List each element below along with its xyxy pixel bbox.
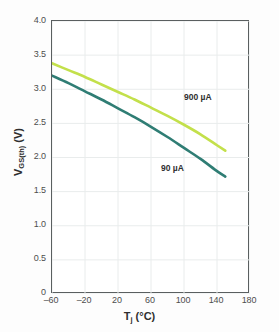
y-axis-title-main: V xyxy=(12,169,24,176)
y-tick-label: 0.5 xyxy=(2,254,46,263)
series-line-90ua xyxy=(52,76,225,177)
x-axis-title-unit: (°C) xyxy=(133,310,156,322)
x-axis-title: Tj (°C) xyxy=(0,310,279,324)
plot-canvas xyxy=(52,21,250,294)
x-tick-label: 180 xyxy=(229,296,269,305)
chart-figure: 4.0 3.5 3.0 2.5 2.0 1.5 1.0 0.5 0 –60 –2… xyxy=(0,0,279,332)
y-axis-title: VGS(th) (V) xyxy=(12,72,26,232)
series-label-90ua: 90 µA xyxy=(161,163,184,173)
gridlines xyxy=(52,21,250,294)
y-tick-label: 3.5 xyxy=(2,50,46,59)
y-axis-title-unit: (V) xyxy=(12,128,24,146)
y-tick-label: 4.0 xyxy=(2,16,46,25)
series-label-900ua: 900 µA xyxy=(184,92,212,102)
y-axis-title-sub: GS(th) xyxy=(17,146,26,169)
plot-area xyxy=(51,20,249,293)
series-line-900ua xyxy=(52,63,225,150)
data-curves xyxy=(52,63,225,176)
